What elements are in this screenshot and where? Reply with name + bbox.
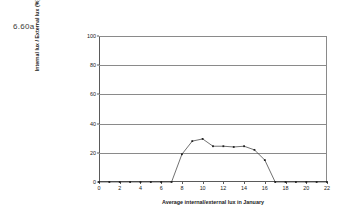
line-chart-figure: Internal lux / External lux (%) 02040608… [0,0,345,218]
x-tick-label: 16 [262,185,268,191]
data-point-marker [222,145,224,147]
data-point-marker [108,181,110,183]
x-tick-label: 6 [160,185,163,191]
data-point-marker [171,181,173,183]
x-tick-label: 12 [220,185,226,191]
data-point-marker [202,138,204,140]
x-tick-mark [265,182,266,184]
x-tick-label: 0 [98,185,101,191]
x-tick-label: 2 [118,185,121,191]
data-point-marker [326,181,328,183]
data-point-marker [98,181,100,183]
data-point-marker [295,181,297,183]
data-point-marker [254,149,256,151]
x-tick-label: 14 [241,185,247,191]
data-point-marker [181,153,183,155]
data-point-marker [119,181,121,183]
y-tick-label: 20 [90,150,96,156]
x-tick-label: 22 [324,185,330,191]
data-point-marker [274,181,276,183]
x-tick-label: 20 [303,185,309,191]
x-tick-label: 10 [200,185,206,191]
x-axis-title: Average internal/external lux in January [99,199,327,205]
x-tick-mark [223,182,224,184]
data-point-marker [233,146,235,148]
data-point-marker [264,159,266,161]
data-point-marker [140,181,142,183]
data-point-marker [285,181,287,183]
data-point-marker [316,181,318,183]
data-point-marker [191,140,193,142]
x-tick-label: 4 [139,185,142,191]
data-series [99,36,327,182]
data-point-marker [150,181,152,183]
y-tick-label: 40 [90,121,96,127]
plot-area: 020406080100 0246810121416182022 [99,36,327,182]
data-point-marker [212,145,214,147]
y-tick-label: 0 [93,179,96,185]
y-tick-label: 60 [90,91,96,97]
x-tick-label: 8 [180,185,183,191]
x-tick-mark [182,182,183,184]
x-tick-mark [244,182,245,184]
x-tick-mark [203,182,204,184]
data-point-marker [305,181,307,183]
data-point-marker [129,181,131,183]
y-axis-title: Internal lux / External lux (%) [34,0,40,110]
y-tick-label: 80 [90,62,96,68]
data-point-marker [243,145,245,147]
x-tick-label: 18 [283,185,289,191]
data-point-marker [160,181,162,183]
y-tick-label: 100 [87,33,96,39]
